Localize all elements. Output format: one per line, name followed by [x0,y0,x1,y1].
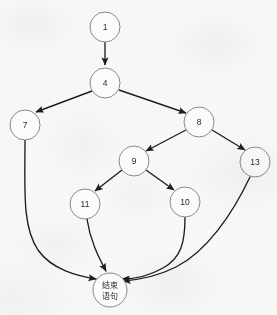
edge-11-to-end [87,219,106,271]
node-13-label: 13 [250,157,260,167]
node-1[interactable]: 1 [90,12,120,42]
node-9-label: 9 [132,156,137,166]
edge-10-to-end [122,217,185,279]
node-8-label: 8 [197,117,202,127]
edge-9-to-11 [95,170,122,191]
node-end-circle [93,273,127,307]
edge-4-to-7 [36,91,92,112]
node-end-statement[interactable]: 结束 语句 [93,273,127,307]
node-8[interactable]: 8 [184,107,214,137]
node-13[interactable]: 13 [240,147,270,177]
node-end-label-line2: 语句 [102,291,118,301]
node-11-label: 11 [81,199,90,209]
edge-8-to-9 [146,130,186,151]
node-4[interactable]: 4 [90,68,120,98]
node-end-label-line1: 结束 [102,280,118,290]
node-7-label: 7 [23,120,28,130]
node-10-label: 10 [180,197,190,207]
edge-9-to-10 [146,170,174,190]
graph-svg: 1 4 7 8 9 13 11 10 [0,0,277,315]
diagram-canvas: 1 4 7 8 9 13 11 10 [0,0,277,315]
edge-8-to-13 [212,130,245,150]
node-9[interactable]: 9 [119,146,149,176]
node-4-label: 4 [103,78,108,88]
node-11[interactable]: 11 [70,189,100,219]
node-1-label: 1 [103,22,108,32]
node-10[interactable]: 10 [170,187,200,217]
edge-4-to-8 [119,90,186,113]
node-7[interactable]: 7 [10,110,40,140]
